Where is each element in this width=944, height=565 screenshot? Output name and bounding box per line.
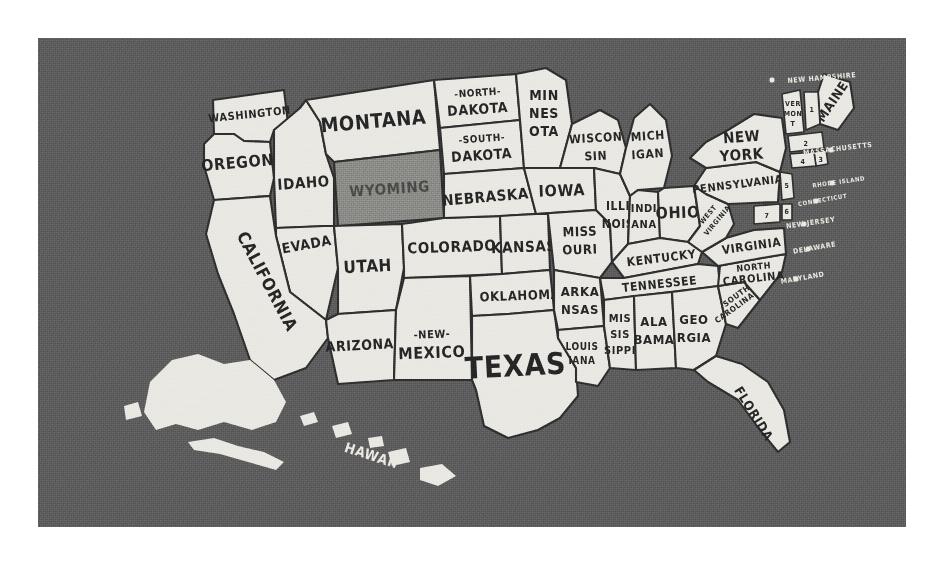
label-louisiana-2: IANA (568, 355, 595, 366)
state-arkansas[interactable]: ARKA NSAS (554, 270, 604, 330)
callout-number-7: 7 (765, 212, 770, 220)
label-minnesota-3: OTA (529, 123, 559, 139)
label-alabama-2: BAMA (633, 332, 674, 347)
state-south-dakota[interactable]: -SOUTH- DAKOTA (440, 120, 524, 174)
callout-maryland[interactable]: MARYLAND (780, 270, 825, 286)
label-wisconsin-2: SIN (584, 148, 607, 163)
label-iowa: IOWA (538, 180, 585, 201)
callout-bullet-1 (769, 77, 775, 83)
label-kansas: KANSAS (491, 237, 557, 257)
label-colorado: COLORADO (407, 236, 497, 257)
state-new-jersey-shape[interactable]: 5 (780, 172, 794, 200)
label-missouri-1: MISS (562, 223, 597, 239)
callout-number-6: 6 (785, 208, 790, 216)
label-minnesota-2: NES (529, 105, 559, 121)
state-utah[interactable]: UTAH (334, 224, 404, 314)
label-texas: TEXAS (464, 345, 567, 385)
callout-label-6: DELAWARE (793, 240, 837, 255)
state-wyoming[interactable]: WYOMING (334, 150, 444, 226)
callout-label-3: RHODE ISLAND (812, 174, 865, 188)
callout-label-5: NEW JERSEY (786, 216, 836, 231)
state-new-mexico[interactable]: -NEW- MEXICO (394, 276, 472, 380)
label-idaho: IDAHO (277, 172, 331, 194)
label-oklahoma: OKLAHOMA (479, 287, 560, 305)
label-mississippi-2: SIS (610, 328, 630, 341)
label-vermont-1: VER (785, 100, 801, 108)
state-nebraska[interactable]: NEBRASKA (441, 168, 536, 218)
label-minnesota-1: MIN (529, 87, 559, 103)
callout-number-4: 4 (801, 158, 806, 166)
label-georgia-2: RGIA (677, 330, 711, 345)
label-ohio: OHIO (655, 202, 700, 223)
state-new-hampshire-shape[interactable]: 1 (804, 92, 820, 130)
state-vermont[interactable]: VER MON T (782, 90, 804, 134)
label-indiana-2: ANA (631, 218, 656, 231)
label-new-mexico-2: MEXICO (398, 342, 466, 363)
callout-number-5: 5 (785, 182, 790, 190)
callout-number-1: 1 (810, 106, 815, 114)
callout-label-4: CONNECTICUT (798, 192, 848, 208)
state-oregon[interactable]: OREGON (200, 134, 274, 200)
callout-delaware[interactable]: DELAWARE (793, 240, 837, 255)
label-michigan-2: IGAN (631, 146, 665, 162)
label-arkansas-1: ARKA (561, 284, 600, 299)
label-mississippi-3: SIPPI (604, 344, 636, 357)
label-georgia-1: GEO (679, 312, 708, 327)
state-colorado[interactable]: COLORADO (402, 216, 502, 278)
label-utah: UTAH (343, 255, 393, 278)
label-illinois-1: ILLI (606, 199, 630, 213)
state-new-york[interactable]: NEW YORK (690, 114, 786, 172)
label-new-mexico-1: -NEW- (413, 327, 450, 341)
label-vermont-2: MON (784, 110, 803, 118)
label-new-york-2: YORK (718, 145, 764, 166)
label-wisconsin-1: WISCON (569, 130, 623, 147)
label-missouri-2: OURI (562, 241, 598, 257)
label-alabama-1: ALA (640, 314, 667, 329)
callout-label-7: MARYLAND (780, 270, 825, 286)
state-florida[interactable]: FLORIDA (694, 356, 790, 452)
us-map[interactable]: WASHINGTON OREGON IDAHO MONTANA WYOMING … (38, 38, 906, 527)
callout-new-jersey[interactable]: NEW JERSEY (786, 216, 836, 231)
label-michigan-1: MICH (630, 128, 665, 144)
callout-number-3: 3 (819, 156, 824, 164)
state-oklahoma[interactable]: OKLAHOMA (470, 270, 560, 316)
label-louisiana-1: LOUIS (565, 341, 598, 352)
callout-connecticut[interactable]: CONNECTICUT (798, 192, 848, 208)
label-vermont-3: T (791, 120, 796, 128)
label-mississippi-1: MIS (609, 312, 631, 325)
label-indiana-1: INDI (631, 202, 657, 215)
state-alaska[interactable]: ALASKA (124, 354, 286, 470)
state-montana[interactable]: MONTANA (306, 80, 440, 162)
map-poster: WASHINGTON OREGON IDAHO MONTANA WYOMING … (38, 38, 906, 527)
state-north-dakota[interactable]: -NORTH- DAKOTA (434, 74, 520, 128)
state-michigan[interactable]: MICH IGAN (620, 104, 672, 196)
state-mississippi[interactable]: MIS SIS SIPPI (604, 296, 636, 370)
label-arkansas-2: NSAS (561, 302, 599, 317)
state-maryland-shape[interactable]: 7 (754, 204, 780, 224)
callout-number-2: 2 (804, 140, 809, 148)
state-arizona[interactable]: ARIZONA (325, 310, 396, 384)
state-delaware-shape[interactable]: 6 (782, 204, 792, 220)
state-iowa[interactable]: IOWA (524, 168, 596, 214)
callout-rhode-island[interactable]: RHODE ISLAND (812, 174, 865, 188)
state-alabama[interactable]: ALA BAMA (633, 292, 676, 370)
state-hawaii[interactable]: HAWAII (300, 412, 456, 486)
